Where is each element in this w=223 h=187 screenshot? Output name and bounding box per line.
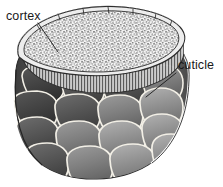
hair-fiber-illustration: cortex cuticle bbox=[0, 0, 223, 187]
cuticle-scale bbox=[110, 144, 156, 187]
hair-structure-figure: cortex cuticle bbox=[0, 0, 223, 187]
cortex-label: cortex bbox=[6, 9, 41, 23]
cuticle-scale bbox=[67, 146, 113, 187]
cuticle-scale bbox=[26, 143, 69, 185]
cuticle-label: cuticle bbox=[178, 58, 214, 72]
